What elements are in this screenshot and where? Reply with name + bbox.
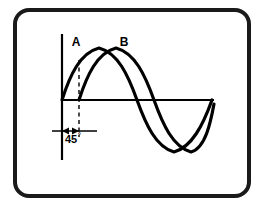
- waveform-b-label: B: [120, 35, 129, 49]
- degree-symbol-icon: °: [78, 132, 81, 139]
- waveform-diagram: A B 45 °: [0, 0, 264, 206]
- waveform-a-label: A: [72, 35, 81, 49]
- phase-angle-label: 45: [65, 133, 77, 145]
- waveform-figure: A B 45 °: [0, 0, 264, 206]
